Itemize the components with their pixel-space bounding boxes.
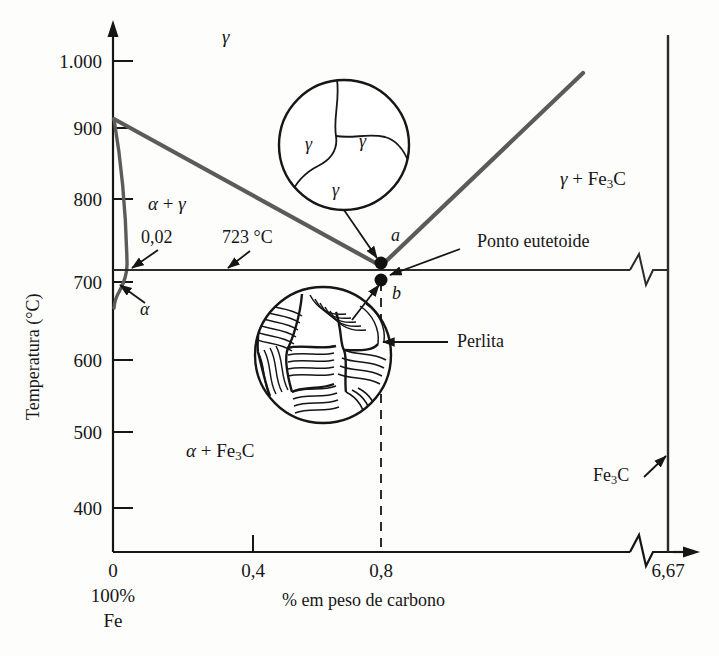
eutectoid-line-break-symbol [630, 254, 668, 285]
austenite-inset-circle [279, 80, 409, 210]
plus-glyph: + [163, 193, 174, 214]
arrow-fe3c [644, 456, 666, 477]
y-tick-label-900: 900 [38, 119, 102, 138]
point-a-marker [375, 257, 388, 270]
cementite-label: Fe3C [593, 466, 629, 486]
gamma-glyph: γ [560, 168, 568, 189]
austenite-grains-inset [279, 80, 409, 258]
c-glyph: C [242, 440, 255, 461]
alpha-fe3c-region-label: α + Fe3C [186, 441, 254, 463]
pearlite-label: Perlita [457, 332, 504, 350]
y-tick-label-400: 400 [38, 499, 102, 518]
gamma-region-label: γ [222, 27, 230, 46]
gamma-fe3c-region-label: γ + Fe3C [560, 169, 626, 191]
y-tick-label-800: 800 [38, 190, 102, 209]
c-glyph: C [613, 168, 626, 189]
composition-0-02-label: 0,02 [141, 228, 173, 246]
x-tick-label-04: 0,4 [228, 561, 278, 580]
point-a-label: a [391, 226, 400, 244]
austenite-inset-leader [344, 210, 377, 258]
y-axis-arrowhead [108, 20, 119, 37]
inset-gamma-label-2: γ [359, 132, 366, 150]
fe-glyph: Fe [593, 465, 611, 485]
alpha-solvus-boundary [114, 119, 127, 308]
x-axis-title: % em peso de carbono [282, 591, 445, 609]
y-axis-title: Temperatura (°C) [24, 294, 42, 420]
gamma-glyph: γ [178, 193, 186, 214]
eutectoid-temperature-label: 723 °C [222, 228, 273, 246]
alpha-glyph: α [186, 440, 196, 461]
phase-diagram-figure: 1.000 900 800 700 600 500 400 Temperatur… [0, 0, 719, 656]
fe-glyph: Fe [216, 440, 235, 461]
origin-label-fe: Fe [83, 611, 143, 630]
phase-diagram-canvas [0, 0, 719, 656]
y-tick-label-600: 600 [38, 351, 102, 370]
point-b-label: b [392, 284, 401, 302]
c-glyph: C [617, 465, 629, 485]
x-tick-label-667: 6,67 [638, 561, 698, 580]
point-b-marker [375, 274, 388, 287]
alpha-gamma-region-label: α + γ [148, 194, 186, 213]
arrow-ponto-eutetoide [390, 249, 460, 275]
y-tick-label-700: 700 [38, 273, 102, 292]
pearlite-lamellae-inset [246, 285, 396, 423]
arrow-0-02 [132, 250, 158, 268]
alpha-phase-label: α [140, 300, 149, 318]
origin-label-100pct: 100% [83, 586, 143, 605]
y-tick-label-1000: 1.000 [38, 52, 102, 71]
x-tick-label-08: 0,8 [356, 561, 406, 580]
arrow-723c [228, 251, 250, 268]
plus-glyph: + [572, 168, 583, 189]
eutectoid-markers-group [375, 257, 388, 287]
eutectoid-point-label: Ponto eutetoide [477, 232, 589, 250]
x-tick-label-0: 0 [93, 561, 133, 580]
plus-glyph: + [201, 440, 212, 461]
inset-gamma-label-3: γ [332, 181, 339, 199]
fe-glyph: Fe [588, 168, 607, 189]
alpha-glyph: α [148, 193, 158, 214]
y-tick-label-500: 500 [38, 423, 102, 442]
inset-gamma-label-1: γ [305, 135, 312, 153]
